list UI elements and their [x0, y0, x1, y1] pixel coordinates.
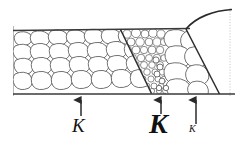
zone-label-k3: K: [189, 124, 196, 134]
zone-label-k1: K: [72, 116, 85, 135]
zone-label-k2: K: [149, 110, 168, 138]
diagram-canvas: K K K: [0, 0, 242, 150]
free-surface-curve: [186, 10, 232, 30]
grain-structure-figure: [0, 0, 242, 150]
